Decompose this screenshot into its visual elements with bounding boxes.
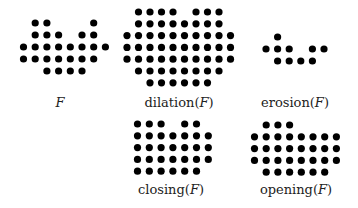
dot: [158, 168, 165, 175]
dot: [286, 145, 293, 152]
dot: [146, 8, 153, 15]
dot: [298, 145, 305, 152]
dot: [158, 79, 165, 86]
dot: [298, 157, 305, 164]
dot: [20, 43, 27, 50]
dot: [321, 169, 328, 176]
dot: [263, 133, 270, 140]
dot: [193, 132, 200, 139]
dot: [158, 8, 165, 15]
dot: [181, 67, 188, 74]
dot: [146, 67, 153, 74]
dot: [192, 56, 199, 63]
panel-F: [20, 19, 109, 74]
panel-closing: [134, 120, 212, 174]
dot: [286, 45, 293, 52]
dot: [146, 20, 153, 27]
dot: [169, 44, 176, 51]
dot: [309, 157, 316, 164]
morphology-figure: F dilation(F) erosion(F) closing(F) open…: [0, 0, 358, 208]
dot: [321, 157, 328, 164]
dot: [204, 44, 211, 51]
dot: [32, 19, 39, 26]
dot: [297, 57, 304, 64]
dot: [102, 43, 109, 50]
dot: [274, 133, 281, 140]
dot: [193, 156, 200, 163]
dot: [169, 20, 176, 27]
dot: [67, 67, 74, 74]
dot: [158, 156, 165, 163]
dot: [146, 168, 153, 175]
label-erosion: erosion(F): [261, 95, 329, 110]
dot: [333, 133, 340, 140]
dot: [169, 156, 176, 163]
dot: [134, 120, 141, 127]
dot: [169, 67, 176, 74]
dot: [169, 132, 176, 139]
dot: [204, 32, 211, 39]
dot: [135, 44, 142, 51]
dot: [43, 55, 50, 62]
dot: [192, 67, 199, 74]
dot: [146, 132, 153, 139]
dot: [192, 32, 199, 39]
dot: [298, 133, 305, 140]
dot: [309, 57, 316, 64]
dot: [192, 44, 199, 51]
dot: [169, 56, 176, 63]
label-dilation: dilation(F): [144, 95, 213, 110]
dot: [134, 156, 141, 163]
dot: [135, 56, 142, 63]
panel-erosion: [262, 33, 327, 64]
dot: [78, 67, 85, 74]
dot: [43, 67, 50, 74]
dot: [67, 43, 74, 50]
dot: [90, 55, 97, 62]
dot: [43, 43, 50, 50]
dot: [90, 43, 97, 50]
dot: [193, 168, 200, 175]
dot: [263, 145, 270, 152]
dot: [286, 57, 293, 64]
dot: [78, 55, 85, 62]
dot: [135, 32, 142, 39]
dot: [78, 43, 85, 50]
label-F: F: [54, 95, 65, 110]
dot: [227, 32, 234, 39]
dot: [169, 32, 176, 39]
dot: [32, 31, 39, 38]
dot: [227, 56, 234, 63]
dot: [181, 44, 188, 51]
dot: [309, 45, 316, 52]
dot: [158, 120, 165, 127]
dot: [263, 121, 270, 128]
dot: [181, 32, 188, 39]
dot: [146, 32, 153, 39]
dot: [204, 79, 211, 86]
dot: [274, 121, 281, 128]
dot: [123, 56, 130, 63]
dot: [286, 133, 293, 140]
dot: [134, 144, 141, 151]
dot: [263, 169, 270, 176]
dot: [286, 169, 293, 176]
dot: [158, 56, 165, 63]
dot: [274, 45, 281, 52]
dot: [193, 144, 200, 151]
dot: [55, 31, 62, 38]
dot: [90, 19, 97, 26]
dot: [158, 20, 165, 27]
dot: [55, 43, 62, 50]
dot: [135, 67, 142, 74]
dot: [55, 55, 62, 62]
dot: [215, 56, 222, 63]
dot: [321, 133, 328, 140]
dot: [205, 156, 212, 163]
dot: [181, 120, 188, 127]
dot: [181, 56, 188, 63]
dot: [215, 67, 222, 74]
dot: [181, 168, 188, 175]
dot: [286, 157, 293, 164]
dot: [251, 157, 258, 164]
